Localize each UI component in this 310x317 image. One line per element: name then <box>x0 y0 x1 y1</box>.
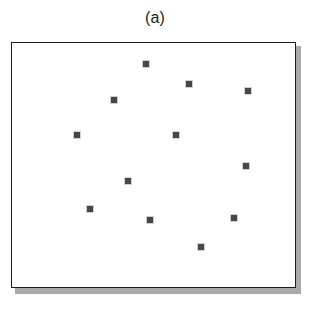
scatter-point <box>186 81 192 87</box>
scatter-point <box>173 132 179 138</box>
scatter-point <box>147 217 153 223</box>
scatter-point-layer <box>12 43 295 287</box>
scatter-point <box>245 88 251 94</box>
scatter-point <box>125 178 131 184</box>
scatter-point <box>143 61 149 67</box>
figure-panel: (a) <box>0 0 310 317</box>
scatter-point <box>231 215 237 221</box>
scatter-point <box>74 132 80 138</box>
scatter-point <box>243 163 249 169</box>
scatter-point <box>111 97 117 103</box>
panel-caption: (a) <box>0 8 310 28</box>
scatter-point <box>198 244 204 250</box>
scatter-plot-area <box>11 42 296 288</box>
scatter-point <box>87 206 93 212</box>
